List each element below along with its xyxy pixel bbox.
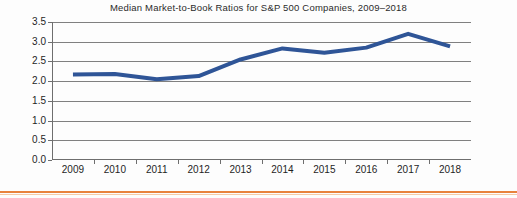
x-axis-tick-labels: 2009201020112012201320142015201620172018 (52, 164, 471, 182)
chart-screenshot: Median Market-to-Book Ratios for S&P 500… (0, 0, 517, 198)
y-axis-tick-label: 3.0 (0, 37, 46, 47)
x-axis-tick-label: 2015 (301, 164, 347, 175)
x-axis-tick-label: 2018 (427, 164, 473, 175)
x-axis-tick-label: 2010 (92, 164, 138, 175)
footer-accent-rule (0, 191, 517, 193)
footer-rule-shadow (0, 194, 517, 195)
y-axis-tick-label: 2.0 (0, 76, 46, 86)
chart-title: Median Market-to-Book Ratios for S&P 500… (0, 2, 517, 13)
y-axis-tick-label: 1.0 (0, 116, 46, 126)
series-polyline (73, 34, 450, 79)
y-axis-tick-label: 1.5 (0, 96, 46, 106)
line-series (52, 22, 471, 160)
y-axis-tick (48, 160, 52, 161)
x-axis-tick-label: 2013 (218, 164, 264, 175)
y-axis-tick-labels: 0.00.51.01.52.02.53.03.5 (0, 22, 46, 160)
y-axis-tick-label: 2.5 (0, 56, 46, 66)
y-axis-tick-label: 0.5 (0, 135, 46, 145)
y-axis-tick-label: 0.0 (0, 155, 46, 165)
x-axis-tick-label: 2012 (176, 164, 222, 175)
y-axis-tick-label: 3.5 (0, 17, 46, 27)
x-axis-tick-label: 2017 (385, 164, 431, 175)
plot-area (52, 22, 471, 160)
x-axis-tick-label: 2011 (134, 164, 180, 175)
x-axis-tick-label: 2014 (259, 164, 305, 175)
x-axis-tick-label: 2009 (50, 164, 96, 175)
x-axis-tick-label: 2016 (343, 164, 389, 175)
